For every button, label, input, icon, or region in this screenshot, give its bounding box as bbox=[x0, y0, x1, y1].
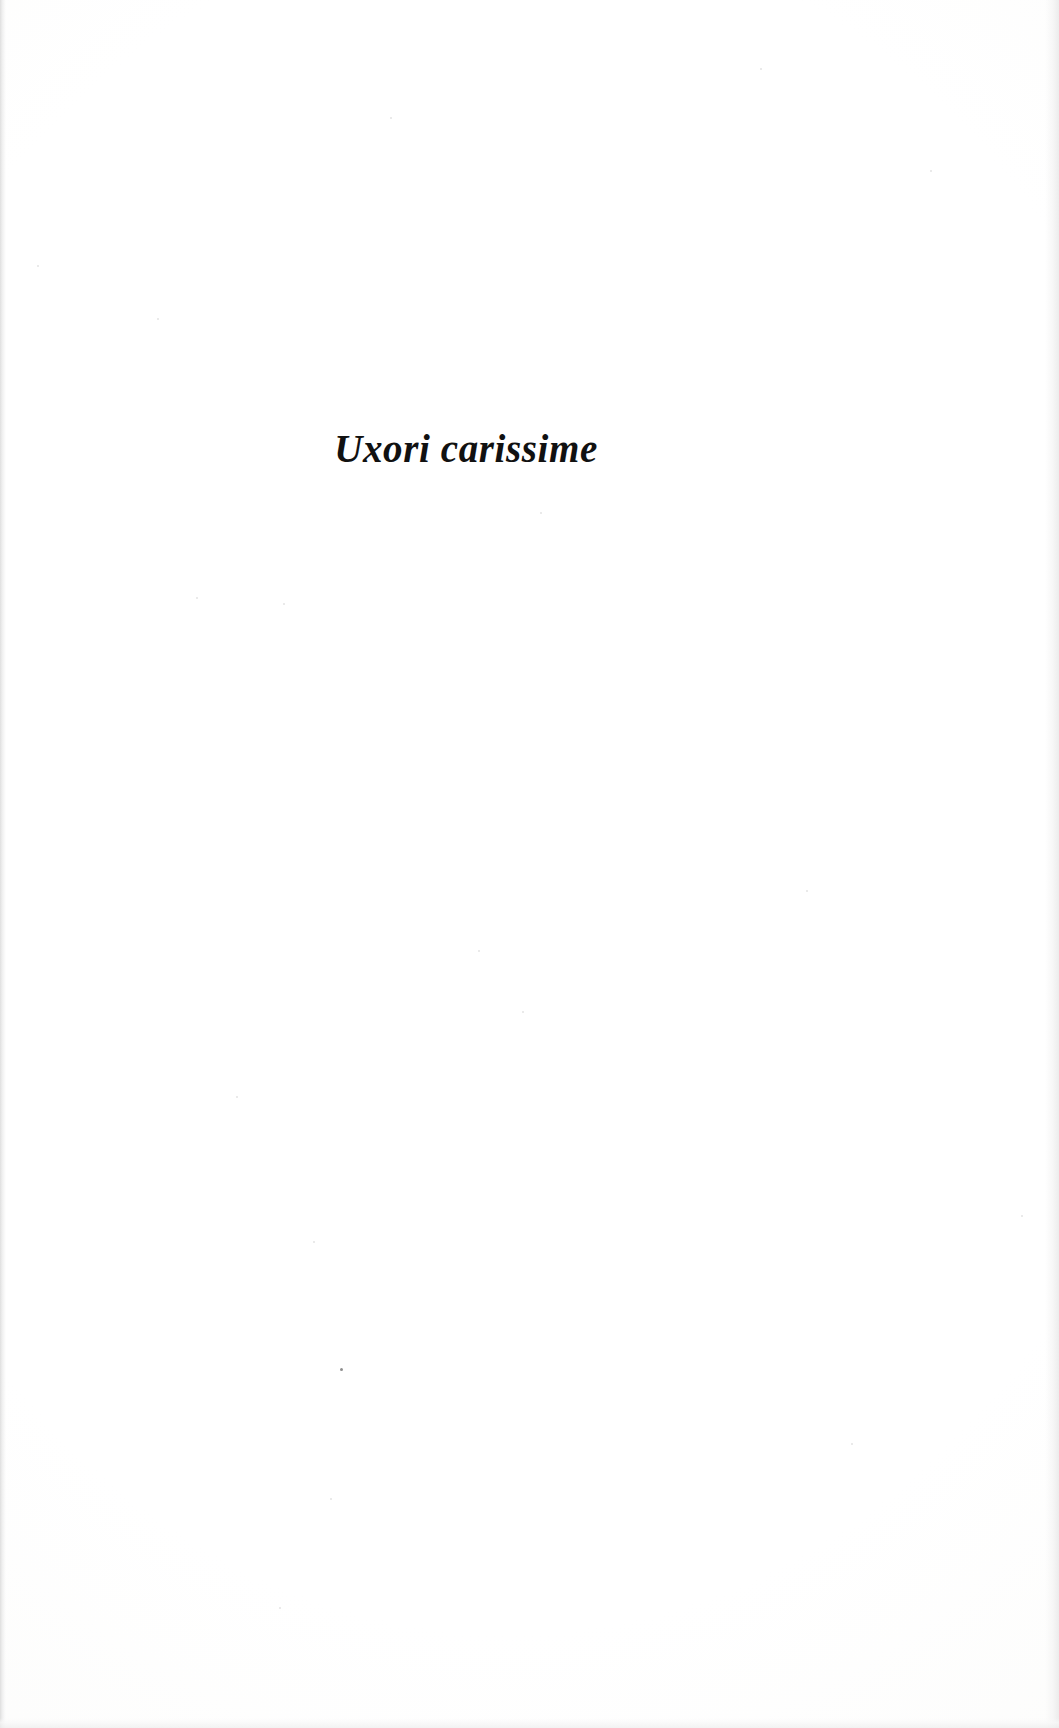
scan-speck bbox=[930, 170, 932, 172]
scan-speck bbox=[236, 1096, 238, 1098]
scan-edge-bottom bbox=[0, 1718, 1059, 1728]
scan-speck bbox=[157, 318, 159, 320]
dedication-block: Uxori carissime bbox=[0, 428, 932, 471]
scan-speck bbox=[806, 890, 808, 892]
paper-texture bbox=[0, 0, 1059, 1728]
scan-speck bbox=[478, 950, 480, 952]
scan-speck bbox=[1021, 1215, 1023, 1217]
dedication-text: Uxori carissime bbox=[334, 428, 598, 471]
scan-speck bbox=[851, 1443, 853, 1445]
scan-speck bbox=[279, 1607, 281, 1609]
scan-edge-right bbox=[1045, 0, 1059, 1728]
scan-speck bbox=[330, 1498, 332, 1500]
scan-speck bbox=[340, 1368, 343, 1371]
scan-speck bbox=[760, 68, 762, 70]
scan-speck bbox=[283, 603, 285, 605]
scan-speck bbox=[37, 265, 39, 267]
scan-speck bbox=[313, 1241, 315, 1243]
scan-speck bbox=[522, 1011, 524, 1013]
book-page: Uxori carissime bbox=[0, 0, 1059, 1728]
scan-edge-left bbox=[0, 0, 6, 1728]
scan-speck bbox=[390, 117, 392, 119]
scan-speck bbox=[196, 597, 198, 599]
scan-speck bbox=[540, 512, 542, 514]
